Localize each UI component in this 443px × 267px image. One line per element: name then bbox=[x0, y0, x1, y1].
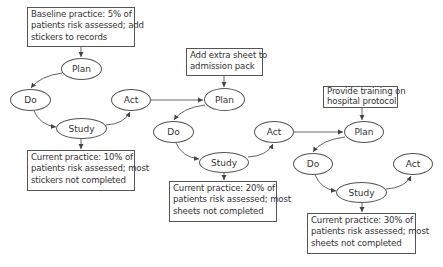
box-line: patients risk assessed; add bbox=[31, 20, 131, 31]
study-node-1: Study bbox=[56, 118, 107, 139]
baseline-box: Baseline practice: 5% of patients risk a… bbox=[27, 7, 135, 47]
change-box-3: Provide training on hospital protocol bbox=[323, 86, 398, 108]
box-line: patients risk assessed; most bbox=[31, 163, 131, 174]
do-node-3: Do bbox=[293, 153, 333, 175]
box-line: sheets not completed bbox=[173, 206, 273, 217]
do-node-1: Do bbox=[10, 89, 51, 111]
box-line: patients risk assessed; most bbox=[311, 226, 412, 237]
box-line: Current practice: 10% of bbox=[31, 152, 131, 163]
act-node-3: Act bbox=[393, 153, 433, 175]
box-line: sheets not completed bbox=[311, 238, 412, 249]
box-line: Add extra sheet to bbox=[190, 50, 259, 61]
box-line: Baseline practice: 5% of bbox=[31, 9, 131, 20]
plan-node-1: Plan bbox=[61, 58, 102, 80]
outcome-box-1: Current practice: 10% of patients risk a… bbox=[27, 150, 135, 191]
box-line: stickers to records bbox=[31, 32, 131, 43]
box-line: admission pack bbox=[190, 61, 259, 72]
do-node-2: Do bbox=[153, 121, 194, 143]
box-line: Current practice: 20% of bbox=[173, 183, 273, 194]
plan-node-3: Plan bbox=[344, 121, 384, 143]
change-box-2: Add extra sheet to admission pack bbox=[186, 48, 263, 76]
act-node-2: Act bbox=[254, 121, 294, 143]
box-line: stickers not completed bbox=[31, 175, 131, 186]
box-line: Current practice: 30% of bbox=[311, 215, 412, 226]
box-line: patients risk assessed; most bbox=[173, 194, 273, 205]
study-node-3: Study bbox=[336, 182, 387, 203]
outcome-box-2: Current practice: 20% of patients risk a… bbox=[169, 181, 277, 222]
outcome-box-3: Current practice: 30% of patients risk a… bbox=[307, 213, 416, 254]
act-node-1: Act bbox=[111, 89, 151, 111]
box-line: hospital protocol bbox=[327, 97, 394, 107]
study-node-2: Study bbox=[199, 152, 249, 173]
plan-node-2: Plan bbox=[204, 88, 245, 111]
